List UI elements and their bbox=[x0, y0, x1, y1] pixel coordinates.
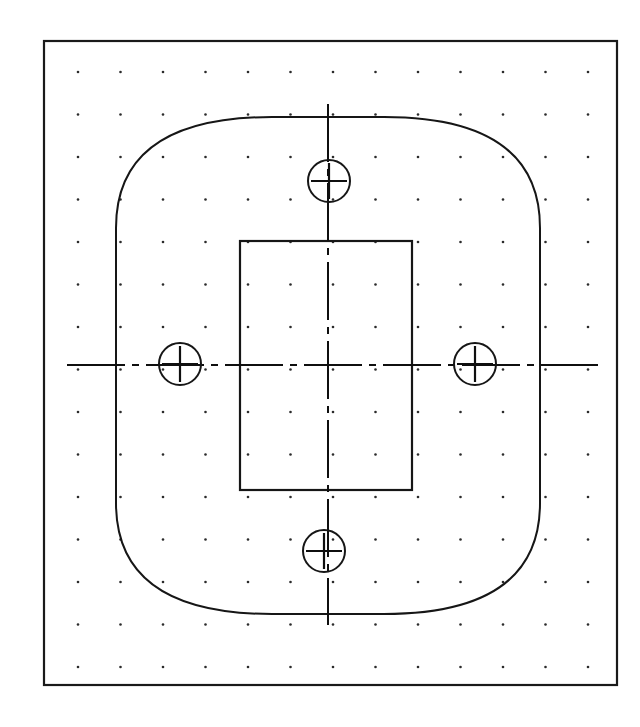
grid-dot bbox=[247, 538, 250, 541]
grid-dot bbox=[247, 71, 250, 74]
grid-dot bbox=[204, 198, 207, 201]
grid-dot bbox=[77, 666, 80, 669]
grid-dot bbox=[374, 411, 377, 414]
hole-top bbox=[308, 160, 350, 202]
grid-dot bbox=[247, 113, 250, 116]
grid-dot bbox=[544, 411, 547, 414]
grid-dot bbox=[587, 581, 590, 584]
grid-dot bbox=[247, 326, 250, 329]
grid-dot bbox=[502, 538, 505, 541]
grid-dot bbox=[374, 623, 377, 626]
grid-dot bbox=[77, 283, 80, 286]
grid-dot bbox=[204, 326, 207, 329]
grid-dot bbox=[417, 538, 420, 541]
grid-dot bbox=[544, 156, 547, 159]
grid-dot bbox=[502, 113, 505, 116]
grid-dot bbox=[119, 666, 122, 669]
grid-dot bbox=[502, 156, 505, 159]
hole-right bbox=[454, 343, 496, 385]
grid-dot bbox=[162, 326, 165, 329]
grid-dot bbox=[332, 156, 335, 159]
grid-dot bbox=[77, 453, 80, 456]
grid-dot bbox=[162, 241, 165, 244]
grid-dot bbox=[247, 496, 250, 499]
grid-dot bbox=[502, 326, 505, 329]
grid-dot bbox=[417, 411, 420, 414]
grid-dot bbox=[77, 113, 80, 116]
grid-dot bbox=[374, 71, 377, 74]
grid-dot bbox=[587, 198, 590, 201]
grid-dot bbox=[119, 581, 122, 584]
grid-dot bbox=[587, 666, 590, 669]
grid-dot bbox=[119, 113, 122, 116]
grid-dot bbox=[502, 666, 505, 669]
grid-dot bbox=[289, 326, 292, 329]
grid-dot bbox=[332, 326, 335, 329]
grid-dot bbox=[332, 411, 335, 414]
grid-dot bbox=[204, 496, 207, 499]
grid-dot bbox=[587, 113, 590, 116]
grid-dot bbox=[587, 453, 590, 456]
grid-dot bbox=[247, 198, 250, 201]
grid-dot bbox=[417, 581, 420, 584]
grid-dot bbox=[417, 623, 420, 626]
grid-dot bbox=[119, 411, 122, 414]
grid-dot bbox=[374, 368, 377, 371]
grid-dot bbox=[459, 623, 462, 626]
grid-dot bbox=[374, 538, 377, 541]
grid-dot bbox=[544, 666, 547, 669]
grid-dot bbox=[247, 411, 250, 414]
grid-dot bbox=[247, 666, 250, 669]
grid-dot bbox=[204, 453, 207, 456]
grid-dot bbox=[77, 71, 80, 74]
grid-dot bbox=[417, 453, 420, 456]
grid-dot bbox=[162, 411, 165, 414]
grid-dot bbox=[459, 411, 462, 414]
grid-dot bbox=[119, 156, 122, 159]
grid-dot bbox=[332, 581, 335, 584]
grid-dot bbox=[204, 241, 207, 244]
grid-dot bbox=[119, 241, 122, 244]
grid-dot bbox=[289, 113, 292, 116]
grid-dot bbox=[544, 241, 547, 244]
grid-dot bbox=[417, 113, 420, 116]
grid-dot bbox=[544, 71, 547, 74]
grid-dot bbox=[77, 581, 80, 584]
grid-dot bbox=[77, 496, 80, 499]
grid-dot bbox=[374, 113, 377, 116]
hole-left bbox=[159, 343, 201, 385]
grid-dot bbox=[247, 453, 250, 456]
grid-dot bbox=[289, 623, 292, 626]
grid-dot bbox=[204, 283, 207, 286]
grid-dot bbox=[289, 368, 292, 371]
grid-dot bbox=[332, 453, 335, 456]
grid-dot bbox=[162, 71, 165, 74]
grid-dot bbox=[502, 241, 505, 244]
grid-dot bbox=[459, 283, 462, 286]
grid-dot bbox=[289, 453, 292, 456]
grid-dot bbox=[162, 113, 165, 116]
grid-dot bbox=[417, 496, 420, 499]
grid-dot bbox=[289, 283, 292, 286]
grid-dot bbox=[77, 198, 80, 201]
grid-dot bbox=[587, 496, 590, 499]
grid-dot bbox=[544, 538, 547, 541]
grid-dot bbox=[119, 496, 122, 499]
grid-dot bbox=[459, 368, 462, 371]
grid-dot bbox=[77, 368, 80, 371]
grid-dot bbox=[417, 368, 420, 371]
grid-dot bbox=[289, 411, 292, 414]
grid-dot bbox=[502, 198, 505, 201]
grid-dot bbox=[332, 538, 335, 541]
grid-dot bbox=[587, 283, 590, 286]
grid-dot bbox=[459, 666, 462, 669]
grid-dot bbox=[119, 283, 122, 286]
grid-dot bbox=[162, 538, 165, 541]
grid-dot bbox=[417, 666, 420, 669]
grid-dot bbox=[459, 496, 462, 499]
grid-dot bbox=[204, 538, 207, 541]
grid-dot bbox=[162, 666, 165, 669]
grid-dot bbox=[587, 538, 590, 541]
sheet-border bbox=[44, 41, 617, 685]
grid-dot bbox=[162, 453, 165, 456]
